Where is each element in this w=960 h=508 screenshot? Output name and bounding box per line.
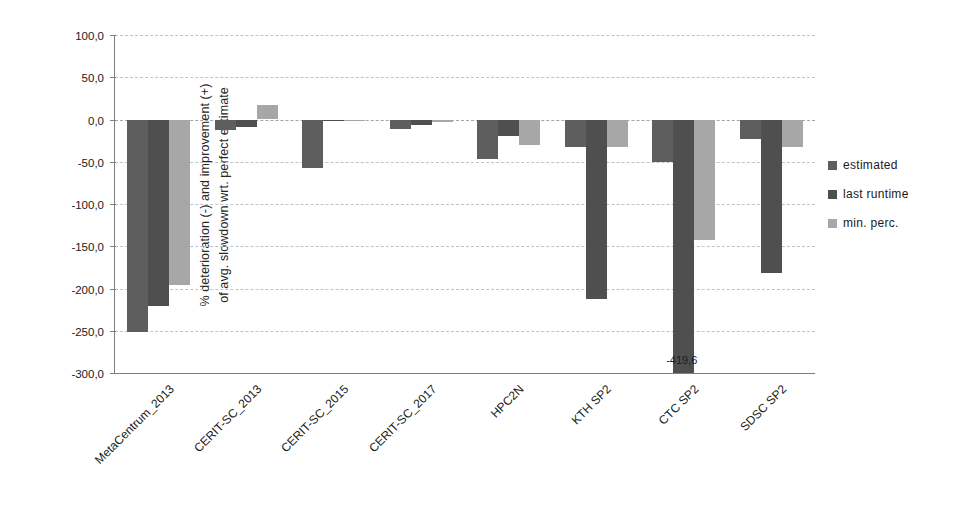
bar-last-runtime	[673, 120, 694, 374]
bar-min-perc-	[432, 120, 453, 123]
gridline	[115, 373, 815, 374]
y-axis-tick: 50,0	[110, 77, 116, 78]
bar-min-perc-	[519, 120, 540, 145]
bar-min-perc-	[694, 120, 715, 241]
bar-last-runtime	[761, 120, 782, 274]
bar-estimated	[302, 120, 323, 168]
y-axis-tick: -50,0	[110, 162, 116, 163]
x-axis-category-label: KTH SP2	[569, 382, 614, 427]
y-axis-tick: -250,0	[110, 331, 116, 332]
y-axis-tick-label: 50,0	[52, 72, 104, 84]
legend-label: estimated	[843, 158, 898, 172]
legend-item[interactable]: estimated	[828, 158, 948, 172]
y-axis-tick: -150,0	[110, 246, 116, 247]
bar-group	[215, 35, 278, 373]
legend-swatch-icon	[828, 219, 837, 228]
x-axis-category-label: CTC SP2	[656, 382, 702, 428]
bar-chart: % deterioration (-) and improvement (+) …	[0, 0, 960, 508]
bar-estimated	[127, 120, 148, 333]
bar-min-perc-	[782, 120, 803, 148]
y-axis-tick-label: 0,0	[52, 115, 104, 127]
bar-estimated	[215, 120, 236, 130]
y-axis-tick: 0,0	[110, 120, 116, 121]
bar-group	[740, 35, 803, 373]
bar-group	[565, 35, 628, 373]
x-axis-category-label: CERIT-SC_2015	[279, 382, 352, 455]
y-axis-tick: -300,0	[110, 373, 116, 374]
chart-legend: estimatedlast runtimemin. perc.	[828, 158, 948, 245]
legend-swatch-icon	[828, 161, 837, 170]
bar-estimated	[565, 120, 586, 148]
bar-estimated	[740, 120, 761, 139]
x-axis-category-label: MetaCentrum_2013	[92, 382, 177, 467]
legend-item[interactable]: min. perc.	[828, 216, 948, 230]
legend-item[interactable]: last runtime	[828, 187, 948, 201]
bar-group	[127, 35, 190, 373]
y-axis-tick-label: -200,0	[52, 284, 104, 296]
y-axis-tick-label: 100,0	[52, 30, 104, 42]
bar-min-perc-	[344, 120, 365, 122]
y-axis-tick: -100,0	[110, 204, 116, 205]
bar-group	[390, 35, 453, 373]
bar-last-runtime	[586, 120, 607, 300]
y-axis-tick-label: -50,0	[52, 157, 104, 169]
bar-last-runtime	[411, 120, 432, 126]
bar-last-runtime	[236, 120, 257, 128]
bar-min-perc-	[257, 105, 278, 119]
bar-last-runtime	[323, 120, 344, 121]
bar-min-perc-	[169, 120, 190, 286]
x-axis-category-label: CERIT-SC_2013	[191, 382, 264, 455]
legend-swatch-icon	[828, 190, 837, 199]
bar-group	[302, 35, 365, 373]
y-axis-tick-label: -250,0	[52, 326, 104, 338]
y-axis-tick: 100,0	[110, 35, 116, 36]
y-axis-tick: -200,0	[110, 289, 116, 290]
x-axis-category-label: HPC2N	[488, 382, 527, 421]
y-axis-tick-label: -150,0	[52, 241, 104, 253]
bar-group	[652, 35, 715, 373]
x-axis-category-label: CERIT-SC_2017	[366, 382, 439, 455]
y-axis-tick-label: -300,0	[52, 368, 104, 380]
bar-estimated	[390, 120, 411, 129]
bar-estimated	[652, 120, 673, 162]
plot-area: 100,050,00,0-50,0-100,0-150,0-200,0-250,…	[115, 35, 815, 373]
bar-last-runtime	[148, 120, 169, 307]
bar-group	[477, 35, 540, 373]
bar-min-perc-	[607, 120, 628, 148]
x-axis-category-label: SDSC SP2	[737, 382, 789, 434]
bar-estimated	[477, 120, 498, 160]
legend-label: last runtime	[843, 187, 909, 201]
legend-label: min. perc.	[843, 216, 899, 230]
bar-value-annotation: -419,6	[666, 354, 697, 366]
bar-last-runtime	[498, 120, 519, 136]
y-axis-tick-label: -100,0	[52, 199, 104, 211]
